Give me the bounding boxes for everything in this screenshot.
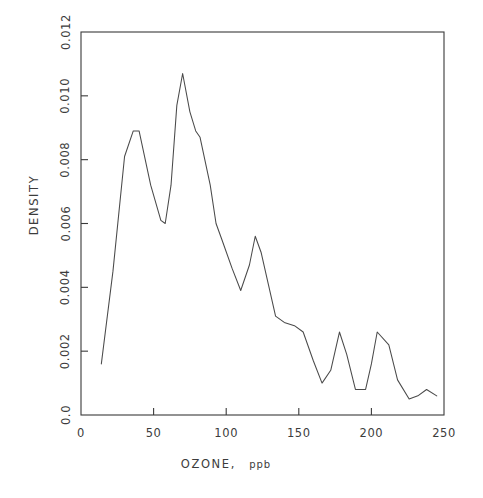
y-axis-tick-labels: 0.00.0020.0040.0060.0080.0100.012 [59,14,73,425]
y-tick-label: 0.004 [59,269,73,305]
y-axis-label: DENSITY [27,175,41,236]
x-axis-label-main: OZONE, [181,457,236,471]
y-axis-ticks [81,96,88,351]
x-tick-label: 150 [287,426,311,440]
x-tick-label: 200 [360,426,384,440]
density-curve [101,73,436,399]
x-axis-ticks [154,408,372,415]
y-tick-label: 0.010 [59,78,73,114]
x-tick-label: 50 [146,426,162,440]
plot-frame [81,32,444,415]
y-tick-label: 0.006 [59,206,73,242]
x-axis-tick-labels: 050100150200250 [77,426,456,440]
x-axis-label: OZONE, ppb [181,457,271,471]
x-tick-label: 0 [77,426,85,440]
density-line-chart: 050100150200250 0.00.0020.0040.0060.0080… [0,0,483,498]
y-tick-label: 0.0 [59,405,73,425]
x-tick-label: 100 [214,426,238,440]
chart-figure: 050100150200250 0.00.0020.0040.0060.0080… [0,0,483,498]
x-tick-label: 250 [432,426,456,440]
y-tick-label: 0.012 [59,14,73,50]
x-axis-label-unit: ppb [249,459,271,470]
y-tick-label: 0.008 [59,142,73,178]
y-tick-label: 0.002 [59,333,73,369]
